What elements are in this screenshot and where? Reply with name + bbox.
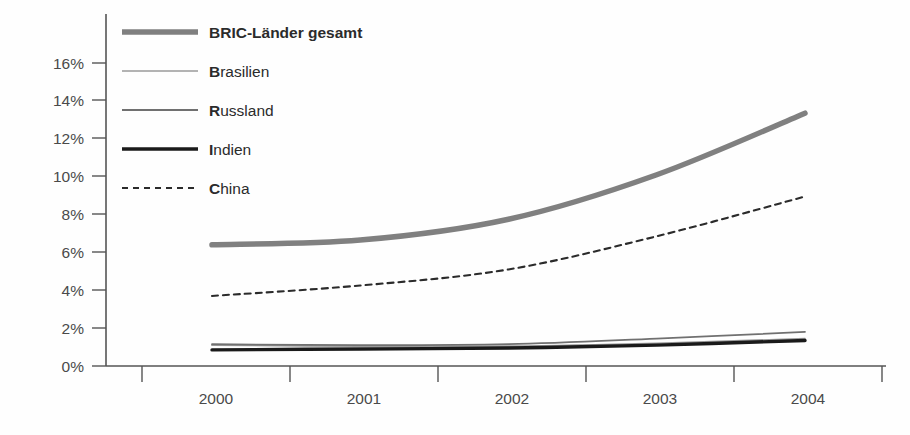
legend-label-indien: Indien	[209, 141, 251, 158]
legend-item-indien[interactable]: Indien	[122, 141, 251, 158]
legend-label-brasilien: Brasilien	[209, 63, 269, 80]
series-line-bric	[212, 113, 805, 245]
line-chart-bric-shares: 16% 14% 12% 10% 8% 6% 4% 2% 0% 2000 2001…	[0, 0, 910, 435]
y-tick-label-0: 0%	[62, 358, 85, 375]
data-series-layer	[212, 113, 805, 350]
chart-canvas: 16% 14% 12% 10% 8% 6% 4% 2% 0% 2000 2001…	[0, 0, 910, 435]
y-tick-marks	[92, 63, 106, 366]
x-tick-marks	[142, 366, 882, 382]
x-tick-label-2001: 2001	[347, 390, 381, 407]
y-tick-label-6: 6%	[62, 244, 85, 261]
legend-label-russland: Russland	[209, 102, 274, 119]
y-tick-label-16: 16%	[53, 55, 84, 72]
legend-item-russland[interactable]: Russland	[122, 102, 274, 119]
y-tick-label-10: 10%	[53, 168, 84, 185]
x-tick-label-2004: 2004	[791, 390, 826, 407]
x-tick-label-2000: 2000	[199, 390, 234, 407]
legend-item-brasilien[interactable]: Brasilien	[122, 63, 269, 80]
legend-item-china[interactable]: China	[122, 180, 250, 197]
y-tick-label-14: 14%	[53, 92, 84, 109]
y-tick-label-8: 8%	[62, 206, 85, 223]
x-tick-label-2003: 2003	[643, 390, 677, 407]
series-line-china	[212, 197, 805, 296]
x-axis-labels: 2000 2001 2002 2003 2004	[199, 390, 826, 407]
legend-label-bric: BRIC-Länder gesamt	[209, 24, 362, 41]
chart-legend: BRIC-Länder gesamt Brasilien Russland In…	[122, 24, 362, 197]
legend-label-china: China	[209, 180, 250, 197]
y-axis-labels: 16% 14% 12% 10% 8% 6% 4% 2% 0%	[53, 55, 84, 375]
y-tick-label-2: 2%	[62, 320, 85, 337]
legend-item-bric[interactable]: BRIC-Länder gesamt	[122, 24, 362, 41]
y-tick-label-4: 4%	[62, 282, 85, 299]
y-tick-label-12: 12%	[53, 130, 84, 147]
x-tick-label-2002: 2002	[495, 390, 529, 407]
